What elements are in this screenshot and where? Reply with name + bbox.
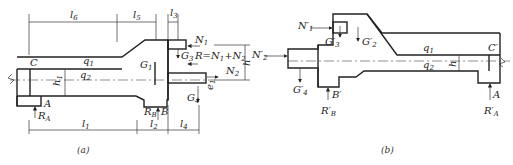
label-q2: q2 bbox=[80, 69, 91, 82]
label-g2p: G′2 bbox=[362, 36, 377, 49]
label-ap: A bbox=[492, 89, 500, 100]
label-cp: C′ bbox=[488, 42, 499, 53]
upper-slab-outline bbox=[17, 40, 168, 57]
block-n1 bbox=[168, 40, 186, 49]
label-rap: R′A bbox=[483, 105, 499, 118]
label-h1: h1 bbox=[51, 75, 64, 86]
figure-a: l6 l5 l3 C q1 q2 h1 G1 N1 G3 R=N1+N2 N2 … bbox=[8, 7, 252, 155]
label-rbp: R′B bbox=[320, 105, 336, 118]
label-g1: G1 bbox=[140, 59, 152, 72]
label-c: C bbox=[30, 57, 38, 68]
label-g4: G4 bbox=[187, 92, 199, 105]
lower-slab-outline bbox=[17, 88, 168, 107]
label-l3: l3 bbox=[170, 7, 178, 20]
label-l4: l4 bbox=[180, 118, 188, 131]
beam-force-diagram: l6 l5 l3 C q1 q2 h1 G1 N1 G3 R=N1+N2 N2 … bbox=[0, 0, 513, 165]
label-g4p: G′4 bbox=[293, 84, 308, 97]
label-r-equation: R=N1+N2 bbox=[194, 50, 246, 63]
label-l6: l6 bbox=[70, 9, 78, 22]
label-h-b: h bbox=[447, 61, 458, 67]
label-l5: l5 bbox=[133, 9, 141, 22]
label-l2: l2 bbox=[150, 118, 158, 131]
label-n1: N1 bbox=[194, 34, 208, 47]
label-n2: N2 bbox=[225, 65, 240, 78]
label-n1p: N′1 bbox=[297, 20, 314, 33]
label-l1: l1 bbox=[82, 118, 90, 131]
label-ra: RA bbox=[37, 110, 51, 123]
figure-b: N′1 G′3 G′2 N′2 G′4 B′ R′B q1 q2 h C′ A … bbox=[251, 14, 510, 155]
label-h: h bbox=[241, 60, 252, 66]
label-b: B bbox=[160, 106, 168, 117]
break-mark bbox=[8, 74, 14, 84]
label-bp: B′ bbox=[331, 89, 342, 100]
lower-outline-b bbox=[288, 34, 500, 87]
label-g3: G3 bbox=[181, 50, 194, 63]
caption-b: (b) bbox=[381, 145, 394, 155]
label-g3p: G′3 bbox=[325, 36, 340, 49]
label-q1-b: q1 bbox=[423, 42, 434, 55]
support-a bbox=[17, 96, 41, 106]
label-a: A bbox=[43, 98, 51, 109]
block-n2 bbox=[168, 73, 206, 83]
caption-a: (a) bbox=[77, 145, 90, 155]
label-n2p: N′2 bbox=[251, 49, 268, 62]
